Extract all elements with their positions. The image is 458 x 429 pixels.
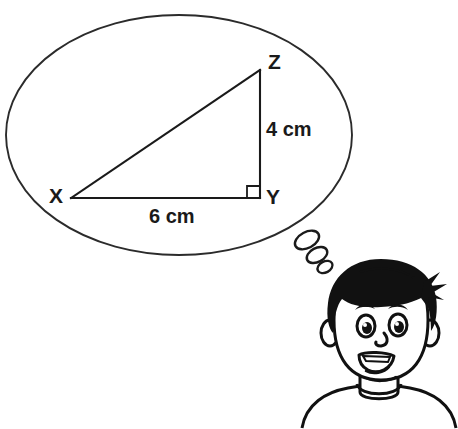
- teeth: [363, 356, 390, 362]
- eye-highlight-left: [363, 323, 367, 327]
- side-measure-xy: 6 cm: [149, 205, 195, 227]
- eye-highlight-right: [395, 322, 399, 326]
- side-measure-yz: 4 cm: [266, 118, 312, 140]
- illustration-canvas: X Y Z 6 cm 4 cm: [0, 0, 458, 429]
- vertex-label-x: X: [49, 184, 63, 207]
- vertex-label-z: Z: [268, 50, 281, 73]
- vertex-label-y: Y: [266, 185, 280, 208]
- scene-root: X Y Z 6 cm 4 cm: [0, 0, 458, 429]
